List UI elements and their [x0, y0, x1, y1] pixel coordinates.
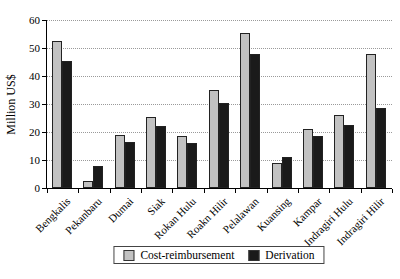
gridline [47, 20, 392, 21]
x-axis-line [46, 188, 392, 189]
bar-cost-reimbursement [115, 135, 125, 188]
bar-cost-reimbursement [83, 181, 93, 188]
x-tick [392, 189, 393, 193]
x-tick [204, 189, 205, 193]
bar-cost-reimbursement [272, 163, 282, 188]
x-tick-label: Siak [145, 195, 167, 217]
x-tick [110, 189, 111, 193]
bar-derivation [125, 142, 135, 188]
y-tick-label: 0 [14, 182, 40, 194]
bar-derivation [93, 166, 103, 188]
x-tick-label: Dumai [106, 195, 136, 225]
x-tick [329, 189, 330, 193]
bar-derivation [219, 103, 229, 188]
x-tick [267, 189, 268, 193]
legend-swatch-cost-reimbursement [123, 250, 134, 261]
x-tick [361, 189, 362, 193]
bar-derivation [187, 143, 197, 188]
legend-swatch-derivation [248, 250, 259, 261]
y-tick-label: 20 [14, 126, 40, 138]
y-axis-line [46, 20, 47, 189]
bar-cost-reimbursement [303, 129, 313, 188]
bar-derivation [62, 61, 72, 188]
gridline [47, 76, 392, 77]
legend-label-cost-reimbursement: Cost-reimbursement [140, 249, 234, 261]
bar-derivation [156, 126, 166, 188]
x-tick [141, 189, 142, 193]
bar-cost-reimbursement [366, 54, 376, 188]
x-tick [78, 189, 79, 193]
y-tick-label: 30 [14, 98, 40, 110]
x-tick [172, 189, 173, 193]
x-tick [298, 189, 299, 193]
bar-derivation [313, 136, 323, 188]
bar-cost-reimbursement [209, 90, 219, 188]
bar-cost-reimbursement [52, 41, 62, 188]
y-tick-label: 60 [14, 14, 40, 26]
bar-derivation [282, 157, 292, 188]
bar-derivation [250, 54, 260, 188]
bar-cost-reimbursement [177, 136, 187, 188]
legend-label-derivation: Derivation [265, 249, 314, 261]
bar-derivation [376, 108, 386, 188]
bar-cost-reimbursement [240, 33, 250, 188]
bar-chart-figure: Million US$ Cost-reimbursement Derivatio… [0, 0, 400, 279]
gridline [47, 48, 392, 49]
x-tick-label: Kuansing [254, 195, 292, 233]
legend: Cost-reimbursement Derivation [113, 246, 324, 264]
y-tick-label: 40 [14, 70, 40, 82]
bar-cost-reimbursement [334, 115, 344, 188]
x-tick [47, 189, 48, 193]
bar-cost-reimbursement [146, 117, 156, 188]
y-tick-label: 10 [14, 154, 40, 166]
bar-derivation [344, 125, 354, 188]
x-tick [235, 189, 236, 193]
y-tick-label: 50 [14, 42, 40, 54]
